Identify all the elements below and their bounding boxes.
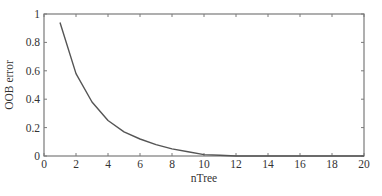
y-tick-label: 0 <box>34 150 40 162</box>
line-chart: 02468101214161820 00.20.40.60.81 nTree O… <box>0 0 382 196</box>
x-tick-label: 14 <box>262 158 274 170</box>
x-tick-label: 10 <box>198 158 210 170</box>
x-tick-label: 8 <box>169 158 175 170</box>
oob-error-line <box>60 23 364 157</box>
x-tick-label: 12 <box>230 158 242 170</box>
plot-border <box>44 14 364 156</box>
x-tick-label: 0 <box>41 158 47 170</box>
y-tick-label: 1 <box>34 8 40 20</box>
y-axis-label: OOB error <box>3 60 15 110</box>
y-tick-label: 0.8 <box>26 36 41 48</box>
x-tick-label: 6 <box>137 158 143 170</box>
y-axis: 00.20.40.60.81 <box>26 8 364 162</box>
y-tick-label: 0.2 <box>26 122 41 134</box>
x-axis-label: nTree <box>191 172 217 184</box>
x-tick-label: 18 <box>326 158 338 170</box>
y-tick-label: 0.6 <box>26 65 41 77</box>
series-line <box>60 23 364 157</box>
x-tick-label: 16 <box>294 158 306 170</box>
x-tick-label: 2 <box>73 158 79 170</box>
x-tick-label: 20 <box>358 158 370 170</box>
plot-frame <box>44 14 364 156</box>
x-tick-label: 4 <box>105 158 111 170</box>
x-axis: 02468101214161820 <box>41 14 370 170</box>
y-tick-label: 0.4 <box>26 93 41 105</box>
